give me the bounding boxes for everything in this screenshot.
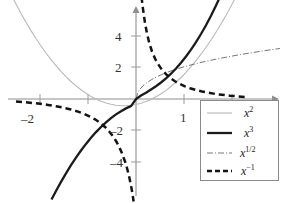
curve-x-one-half	[136, 49, 280, 100]
x-tick-label-1: 1	[180, 110, 187, 125]
y-tick-label-4: 4	[115, 29, 122, 44]
legend: x2 x3 x1/2 x−1	[201, 101, 279, 181]
function-plot-figure: –2 1 4 2 –2 –4 x2 x3 x1/2	[0, 0, 281, 203]
legend-exponent-x-squared: 2	[249, 105, 253, 114]
y-tick-label-minus4: –4	[109, 155, 124, 170]
y-tick-label-2: 2	[115, 60, 122, 75]
curve-x-squared	[11, 0, 235, 106]
y-axis-arrow-icon	[133, 6, 140, 13]
plot-canvas: –2 1 4 2 –2 –4 x2 x3 x1/2	[0, 0, 281, 203]
legend-exponent-x-cubed: 3	[249, 125, 253, 134]
y-tick-label-minus2: –2	[109, 123, 123, 138]
curve-x-inverse-positive-branch	[142, 0, 247, 97]
x-tick-label-minus2: –2	[20, 111, 34, 126]
legend-exponent-x-one-half: 1/2	[245, 145, 255, 154]
legend-exponent-x-inverse: −1	[246, 163, 255, 172]
curve-x-cubed	[52, 0, 220, 200]
